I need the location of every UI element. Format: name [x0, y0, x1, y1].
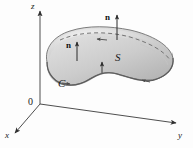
origin-label: 0	[28, 97, 33, 107]
x-axis-label: x	[5, 131, 9, 140]
figure-canvas	[0, 0, 193, 148]
normal-label-left: n	[66, 41, 71, 50]
boundary-label-C: C	[58, 78, 65, 89]
normal-label-top-right: n	[105, 13, 110, 22]
x-axis	[15, 104, 40, 133]
surface-S	[46, 27, 173, 86]
y-axis	[40, 104, 176, 123]
y-axis-label: y	[178, 131, 182, 140]
z-axis-label: z	[31, 2, 35, 11]
stokes-theorem-figure: z y x 0 S C n n	[0, 0, 193, 148]
surface-label-S: S	[115, 52, 121, 63]
